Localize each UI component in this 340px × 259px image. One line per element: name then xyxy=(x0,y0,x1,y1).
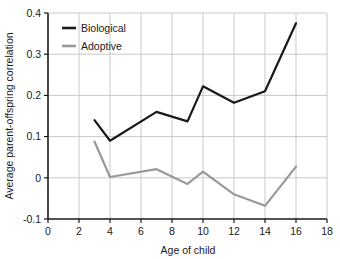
y-tick-label: -0.1 xyxy=(23,213,41,225)
y-tick-label: 0.3 xyxy=(26,48,41,60)
chart-canvas: 024681012141618 0.40.30.20.10-0.1 Biolog… xyxy=(0,0,340,259)
x-tick-label: 8 xyxy=(169,225,175,237)
line-chart: 024681012141618 0.40.30.20.10-0.1 Biolog… xyxy=(0,0,340,259)
y-tick-label: 0 xyxy=(35,172,41,184)
x-tick-label: 14 xyxy=(259,225,271,237)
x-tick-label: 16 xyxy=(290,225,302,237)
x-tick-label: 2 xyxy=(76,225,82,237)
x-tick-label: 0 xyxy=(45,225,51,237)
y-tick-label: 0.4 xyxy=(26,7,41,19)
x-tick-label: 18 xyxy=(321,225,333,237)
x-tick-label: 12 xyxy=(228,225,240,237)
x-tick-label: 6 xyxy=(138,225,144,237)
y-axis-title: Average parent-offspring correlation xyxy=(3,32,15,199)
y-tick-label: 0.2 xyxy=(26,89,41,101)
y-tick-label: 0.1 xyxy=(26,130,41,142)
legend-label-adoptive: Adoptive xyxy=(81,40,122,52)
x-axis-title: Age of child xyxy=(161,244,216,256)
legend-label-biological: Biological xyxy=(81,22,126,34)
x-tick-label: 10 xyxy=(197,225,209,237)
x-tick-label: 4 xyxy=(107,225,113,237)
